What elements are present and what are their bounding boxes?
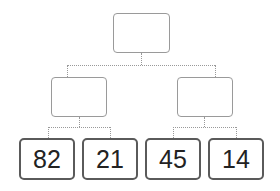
connector-to-leaf-1 xyxy=(48,127,49,138)
root-node xyxy=(113,13,170,53)
leaf-node-3: 45 xyxy=(145,138,201,180)
connector-right-node-down xyxy=(204,117,205,127)
connector-to-right-node xyxy=(215,65,216,77)
connector-right-horizontal xyxy=(173,127,236,128)
leaf-node-2: 21 xyxy=(82,138,138,180)
connector-to-leaf-4 xyxy=(236,127,237,138)
connector-left-horizontal xyxy=(48,127,110,128)
internal-node-left xyxy=(51,77,107,117)
connector-to-leaf-3 xyxy=(173,127,174,138)
connector-to-leaf-2 xyxy=(110,127,111,138)
connector-root-horizontal xyxy=(67,65,215,66)
internal-node-right xyxy=(177,77,233,117)
connector-left-node-down xyxy=(79,117,80,127)
connector-to-left-node xyxy=(67,65,68,77)
connector-root-down xyxy=(141,53,142,65)
leaf-node-4: 14 xyxy=(208,138,264,180)
leaf-node-1: 82 xyxy=(19,138,75,180)
